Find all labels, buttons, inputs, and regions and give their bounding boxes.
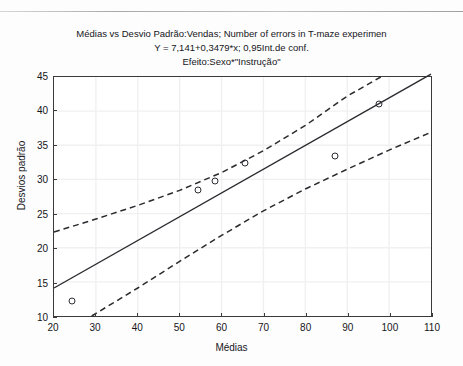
- x-axis-tick-label: 60: [216, 322, 227, 333]
- x-axis-tick-label: 90: [342, 322, 353, 333]
- data-point-marker: [195, 186, 202, 193]
- scatter-plot-figure: Médias vs Desvio Padrão:Vendas; Number o…: [0, 0, 463, 366]
- y-axis-tick-label: 25: [22, 208, 48, 219]
- y-axis-tick: [53, 248, 57, 249]
- chart-title: Médias vs Desvio Padrão:Vendas; Number o…: [0, 28, 463, 40]
- series-layer: [54, 77, 431, 316]
- y-axis-tick: [53, 110, 57, 111]
- data-point-marker: [212, 177, 219, 184]
- y-axis-tick: [53, 283, 57, 284]
- x-axis-tick: [221, 313, 222, 317]
- y-axis-tick: [53, 214, 57, 215]
- x-axis-tick-label: 100: [382, 322, 399, 333]
- plot-area: [53, 76, 432, 317]
- y-axis-tick-label: 45: [22, 71, 48, 82]
- y-axis-tick-label: 15: [22, 277, 48, 288]
- y-axis-tick: [53, 145, 57, 146]
- x-axis-tick-label: 40: [132, 322, 143, 333]
- chart-subtitle-effect: Efeito:Sexo*"Instrução": [0, 56, 463, 68]
- x-axis-tick-label: 50: [174, 322, 185, 333]
- y-axis-tick-label: 30: [22, 174, 48, 185]
- data-point-marker: [241, 159, 248, 166]
- x-axis-tick-label: 110: [424, 322, 440, 333]
- y-axis-tick: [53, 317, 57, 318]
- y-axis-tick-label: 35: [22, 139, 48, 150]
- data-point-marker: [376, 100, 383, 107]
- y-axis-tick-label: 20: [22, 243, 48, 254]
- y-axis-tick: [53, 76, 57, 77]
- x-axis-label: Médias: [0, 342, 463, 353]
- x-axis-tick-label: 20: [47, 322, 58, 333]
- chart-subtitle-equation: Y = 7,141+0,3479*x; 0,95Int.de conf.: [0, 42, 463, 54]
- regression-line: [54, 74, 431, 288]
- y-axis-tick-label: 10: [22, 312, 48, 323]
- data-point-marker: [68, 298, 75, 305]
- x-axis-tick-label: 70: [258, 322, 269, 333]
- x-axis-tick-label: 30: [90, 322, 101, 333]
- x-axis-tick-label: 80: [300, 322, 311, 333]
- x-axis-tick: [137, 313, 138, 317]
- x-axis-tick: [390, 313, 391, 317]
- confidence-band-line: [92, 132, 431, 316]
- x-axis-tick: [348, 313, 349, 317]
- x-axis-tick: [264, 313, 265, 317]
- x-axis-tick: [432, 313, 433, 317]
- x-axis-tick: [95, 313, 96, 317]
- x-axis-tick: [306, 313, 307, 317]
- y-axis-tick: [53, 179, 57, 180]
- data-point-marker: [332, 152, 339, 159]
- y-axis-tick-label: 40: [22, 105, 48, 116]
- x-axis-tick: [179, 313, 180, 317]
